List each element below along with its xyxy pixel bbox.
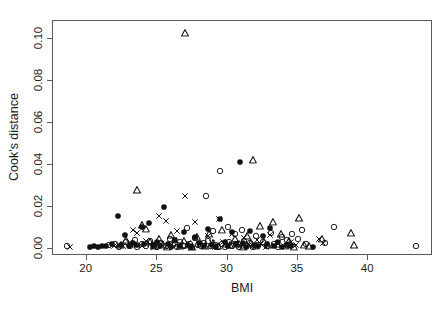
data-point-open-triangle — [305, 242, 314, 251]
data-point-cross-x — [181, 192, 189, 200]
x-tick-mark — [227, 255, 228, 260]
x-tick-mark — [297, 255, 298, 260]
data-point-open-circle — [217, 167, 225, 175]
data-point-open-triangle — [249, 156, 258, 165]
data-point-open-triangle — [268, 218, 277, 227]
data-point-open-triangle — [142, 224, 151, 233]
data-point-filled-circle — [180, 228, 188, 236]
data-point-open-triangle — [277, 230, 286, 239]
x-tick-label: 40 — [361, 262, 374, 274]
data-point-open-triangle — [347, 228, 356, 237]
data-point-open-triangle — [295, 214, 304, 223]
data-point-filled-circle — [114, 212, 122, 220]
x-tick-label: 35 — [290, 262, 303, 274]
data-point-open-triangle — [256, 222, 265, 231]
plot-frame — [52, 20, 432, 255]
data-point-open-circle — [331, 223, 339, 231]
data-point-cross-x — [200, 242, 208, 250]
plot-data-area — [53, 21, 431, 254]
data-point-cross-x — [266, 231, 274, 239]
data-point-cross-x — [215, 215, 223, 223]
data-point-cross-x — [125, 239, 133, 247]
data-point-open-circle — [412, 242, 420, 250]
data-point-filled-circle — [236, 158, 244, 166]
data-point-cross-x — [191, 219, 199, 227]
data-point-cross-x — [262, 243, 270, 251]
data-point-open-triangle — [218, 225, 227, 234]
data-point-open-triangle — [133, 186, 142, 195]
data-point-cross-x — [224, 242, 232, 250]
y-tick-label: 0.00 — [32, 236, 44, 258]
data-point-cross-x — [211, 243, 219, 251]
data-point-cross-x — [173, 227, 181, 235]
data-point-cross-x — [236, 243, 244, 251]
x-tick-mark — [156, 255, 157, 260]
data-point-cross-x — [319, 239, 327, 247]
data-point-cross-x — [158, 240, 166, 248]
data-point-open-circle — [203, 192, 211, 200]
data-point-open-triangle — [181, 28, 190, 37]
x-tick-mark — [367, 255, 368, 260]
x-tick-label: 30 — [220, 262, 233, 274]
data-point-cross-x — [162, 218, 170, 226]
data-point-cross-x — [166, 242, 174, 250]
y-tick-label: 0.06 — [32, 111, 44, 133]
data-point-open-triangle — [350, 241, 359, 250]
x-tick-mark — [86, 255, 87, 260]
data-point-cross-x — [134, 229, 142, 237]
data-point-cross-x — [293, 242, 301, 250]
data-point-cross-x — [228, 230, 236, 238]
y-tick-label: 0.02 — [32, 194, 44, 216]
y-axis-title: Cook's distance — [7, 93, 21, 181]
y-tick-label: 0.08 — [32, 69, 44, 91]
data-point-filled-circle — [160, 203, 168, 211]
data-point-cross-x — [66, 243, 74, 251]
y-tick-label: 0.04 — [32, 153, 44, 175]
x-axis-title: BMI — [231, 281, 253, 295]
x-tick-label: 20 — [79, 262, 92, 274]
data-point-open-circle — [298, 226, 306, 234]
data-point-cross-x — [187, 243, 195, 251]
cooks-distance-scatter-figure: Cook's distance 0.000.020.040.060.080.10… — [0, 0, 446, 309]
x-tick-label: 25 — [150, 262, 163, 274]
y-tick-label: 0.10 — [32, 27, 44, 49]
